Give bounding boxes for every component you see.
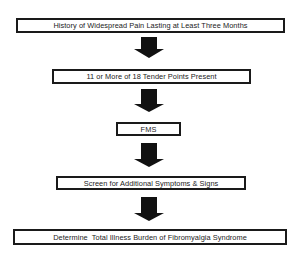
step-label: 11 or More of 18 Tender Points Present [86,72,216,81]
step-fms: FMS [116,122,181,136]
down-arrow-icon [133,197,165,222]
step-total-illness-burden: Determine Total Illness Burden of Fibrom… [13,229,287,245]
step-widespread-pain-history: History of Widespread Pain Lasting at Le… [16,18,285,33]
step-label: FMS [141,125,157,134]
step-tender-points: 11 or More of 18 Tender Points Present [52,69,251,84]
down-arrow-icon [133,89,165,113]
step-screen-symptoms: Screen for Additional Symptoms & Signs [56,176,246,190]
step-label: Screen for Additional Symptoms & Signs [84,179,219,188]
down-arrow-icon [133,143,165,168]
step-label: History of Widespread Pain Lasting at Le… [53,21,247,30]
step-label: Determine Total Illness Burden of Fibrom… [53,233,247,242]
down-arrow-icon [133,37,165,59]
